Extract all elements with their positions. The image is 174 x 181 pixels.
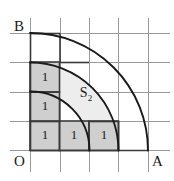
cell-number: 1 xyxy=(101,127,108,142)
vertex-label-b: B xyxy=(14,18,24,34)
cell-number: 1 xyxy=(42,127,49,142)
region-label-letter: S xyxy=(80,85,88,100)
region-label-subscript: 2 xyxy=(88,93,93,103)
geometry-figure: 1 1 1 1 1 S2 B O A xyxy=(0,0,174,181)
cell-number: 1 xyxy=(42,98,49,113)
figure-canvas: 1 1 1 1 1 S2 B O A xyxy=(0,0,174,181)
vertex-label-a: A xyxy=(152,153,163,169)
vertex-label-o: O xyxy=(14,153,25,169)
cell-number: 1 xyxy=(42,69,49,84)
cell-number: 1 xyxy=(71,127,78,142)
